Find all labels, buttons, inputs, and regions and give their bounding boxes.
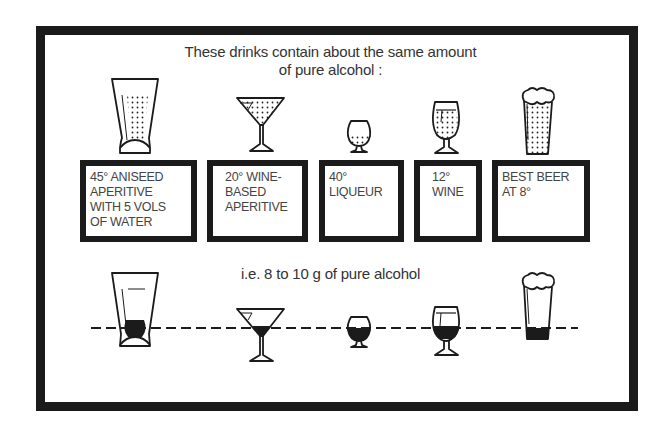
label-line: 12° <box>432 170 476 185</box>
label-line: 45° ANISEED <box>90 170 191 185</box>
label-box-aniseed: 45° ANISEED APERITIVE WITH 5 VOLS OF WAT… <box>80 160 197 242</box>
label-line: 20° WINE- <box>225 170 302 185</box>
label-line: LIQUEUR <box>329 185 398 200</box>
label-box-liqueur: 40° LIQUEUR <box>319 160 404 242</box>
tall-flared-tumbler-icon <box>112 273 158 346</box>
beer-glass-icon <box>523 88 554 154</box>
cocktail-glass-icon <box>237 98 284 151</box>
label-box-beer: BEST BEER AT 8° <box>492 160 590 242</box>
label-line: OF WATER <box>90 215 191 230</box>
label-line: 40° <box>329 170 398 185</box>
wine-glass-icon <box>433 307 459 355</box>
label-line: BASED <box>225 185 302 200</box>
label-line: BEST BEER <box>502 170 584 185</box>
snifter-glass-icon <box>348 121 370 152</box>
label-line: AT 8° <box>502 185 584 200</box>
wine-glass-icon <box>433 102 459 153</box>
label-line: APERITIVE <box>90 185 191 200</box>
beer-glass-icon <box>523 273 554 339</box>
label-box-wine-aperitive: 20° WINE- BASED APERITIVE <box>207 160 308 242</box>
tall-flared-tumbler-icon <box>112 79 158 153</box>
snifter-glass-icon <box>348 317 370 347</box>
cocktail-glass-icon <box>237 309 284 361</box>
label-box-wine: 12° WINE <box>414 160 482 242</box>
label-line: WINE <box>432 185 476 200</box>
comparison-caption: i.e. 8 to 10 g of pure alcohol <box>0 265 661 282</box>
label-line: WITH 5 VOLS <box>90 200 191 215</box>
label-line: APERITIVE <box>225 200 302 215</box>
